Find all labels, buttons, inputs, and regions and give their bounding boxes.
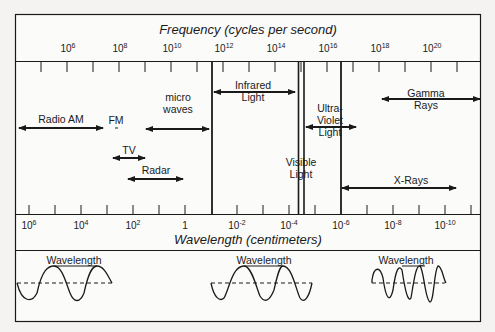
label-gamma-line1: Gamma xyxy=(407,87,445,99)
label-gamma-line2: Rays xyxy=(414,99,438,111)
label-radar: Radar xyxy=(142,164,171,176)
label-ultraviolet-line3: Light xyxy=(319,126,342,138)
label-x-rays: X-Rays xyxy=(394,174,428,186)
label-microwaves-line1: micro xyxy=(165,91,191,103)
label-microwaves-line2: waves xyxy=(162,103,193,115)
label-infrared-line2: Light xyxy=(242,91,265,103)
frequency-axis-title: Frequency (cycles per second) xyxy=(159,22,337,37)
electromagnetic-spectrum-diagram: Frequency (cycles per second) 106 108 10… xyxy=(0,0,495,332)
label-fm: FM xyxy=(108,114,123,126)
label-ultraviolet-line1: Ultra- xyxy=(317,102,343,114)
wave-label-medium: Wavelength xyxy=(236,254,291,266)
label-infrared-line1: Infrared xyxy=(235,79,271,91)
label-visible-line2: Light xyxy=(290,168,313,180)
label-ultraviolet-line2: Violet xyxy=(317,114,343,126)
wavelength-axis-title: Wavelength (centimeters) xyxy=(174,232,322,247)
label-tv: TV xyxy=(122,144,135,156)
diagram-frame xyxy=(16,15,481,322)
label-visible-line1: Visible xyxy=(286,156,317,168)
wave-label-long: Wavelength xyxy=(46,254,101,266)
wave-label-short: Wavelength xyxy=(378,254,433,266)
label-radio-am: Radio AM xyxy=(38,113,84,125)
wl-label-1: 1 xyxy=(182,220,188,231)
